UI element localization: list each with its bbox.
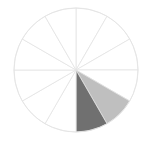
pie-chart-figure	[0, 0, 152, 144]
pie-slices-group	[14, 8, 138, 132]
pie-chart-canvas	[0, 0, 152, 144]
